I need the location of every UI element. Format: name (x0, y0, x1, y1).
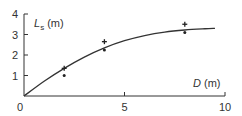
y-axis-label: Ls (m) (34, 17, 64, 32)
plus-marker (102, 39, 107, 44)
y-tick-label: 2 (12, 49, 18, 61)
curve-line (24, 28, 215, 96)
x-axis-label: D (m) (193, 77, 221, 89)
y-tick-label: 4 (12, 8, 18, 20)
plus-marker (182, 22, 187, 27)
x-tick-label: 5 (121, 101, 127, 113)
y-tick-label: 3 (12, 29, 18, 41)
dot-marker (183, 31, 186, 34)
origin-label: 0 (17, 101, 23, 113)
dot-marker (63, 74, 66, 77)
y-tick-label: 1 (12, 70, 18, 82)
chart: 12340510 Ls (m) D (m) (0, 0, 242, 116)
fitted-curve (24, 28, 215, 96)
x-tick-label: 10 (219, 101, 231, 113)
data-markers (62, 22, 188, 77)
dot-marker (103, 48, 106, 51)
